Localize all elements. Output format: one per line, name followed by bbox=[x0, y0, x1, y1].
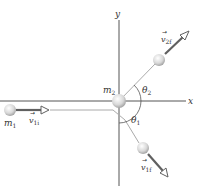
svg-text:v1f: v1f bbox=[141, 163, 152, 173]
svg-text:→: → bbox=[162, 28, 167, 35]
svg-text:→: → bbox=[30, 109, 35, 116]
m1-final-ball bbox=[137, 142, 149, 154]
m2-label: m2 bbox=[103, 85, 116, 96]
x-axis-label: x bbox=[188, 96, 193, 106]
theta1-label: θ1 bbox=[131, 115, 140, 126]
svg-text:→: → bbox=[142, 156, 147, 163]
m1-ball bbox=[4, 104, 16, 116]
m1-incoming-path bbox=[50, 110, 139, 143]
m2-final-ball bbox=[153, 54, 165, 66]
v1i-label: → v1i bbox=[29, 109, 39, 126]
m2-ball bbox=[112, 94, 126, 108]
svg-text:v1i: v1i bbox=[29, 116, 39, 126]
svg-text:v2f: v2f bbox=[161, 35, 172, 45]
m1-label: m1 bbox=[4, 118, 16, 129]
theta2-arc bbox=[134, 85, 141, 101]
y-axis-label: y bbox=[114, 9, 121, 19]
v2f-label: → v2f bbox=[161, 28, 172, 45]
collision-diagram: y x m1 m2 → v1i → v2f → v1f θ2 θ1 bbox=[0, 0, 205, 186]
theta2-label: θ2 bbox=[142, 85, 151, 96]
